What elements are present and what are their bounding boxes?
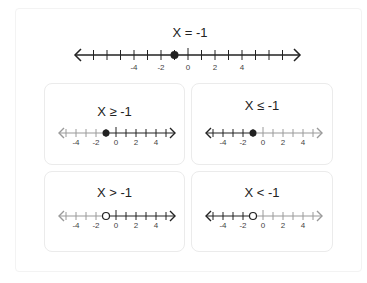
svg-text:2: 2 [281, 221, 286, 230]
svg-text:-4: -4 [219, 221, 227, 230]
small-number-lines: -4-2024-4-2024-4-2024-4-2024 [0, 0, 367, 283]
svg-text:2: 2 [134, 138, 139, 147]
svg-text:-2: -2 [92, 221, 100, 230]
svg-text:-2: -2 [239, 221, 247, 230]
svg-text:-4: -4 [72, 138, 80, 147]
svg-text:4: 4 [154, 221, 159, 230]
svg-text:-4: -4 [72, 221, 80, 230]
svg-text:4: 4 [301, 221, 306, 230]
svg-text:-2: -2 [92, 138, 100, 147]
svg-text:2: 2 [281, 138, 286, 147]
svg-text:-4: -4 [219, 138, 227, 147]
svg-text:-2: -2 [239, 138, 247, 147]
svg-text:0: 0 [261, 138, 266, 147]
svg-text:0: 0 [261, 221, 266, 230]
svg-text:4: 4 [154, 138, 159, 147]
svg-text:2: 2 [134, 221, 139, 230]
svg-text:0: 0 [114, 138, 119, 147]
svg-text:0: 0 [114, 221, 119, 230]
svg-text:4: 4 [301, 138, 306, 147]
